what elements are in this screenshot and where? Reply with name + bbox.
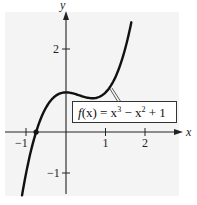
x-tick-label-1: 1 bbox=[103, 136, 109, 150]
x-tick-label-2: 2 bbox=[142, 136, 148, 150]
cubic-graph: x −1 1 2 y 2 −1 f(x) = x3 − x2 + 1 bbox=[0, 0, 197, 205]
x-tick-label-neg1: −1 bbox=[15, 136, 28, 150]
function-label: f(x) = x3 − x2 + 1 bbox=[78, 105, 166, 120]
root-point bbox=[34, 129, 39, 134]
y-axis-label: y bbox=[59, 0, 66, 12]
x-axis-label: x bbox=[185, 125, 192, 139]
y-tick-label-neg1: −1 bbox=[47, 166, 60, 180]
chart: x −1 1 2 y 2 −1 f(x) = x3 − x2 + 1 bbox=[0, 0, 197, 205]
y-tick-label-2: 2 bbox=[53, 42, 59, 56]
